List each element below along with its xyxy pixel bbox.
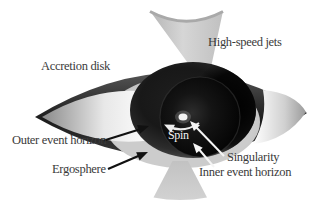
label-singularity: Singularity [227,151,279,165]
label-inner-event-horizon: Inner event horizon [199,166,291,180]
label-spin: Spin [168,129,189,142]
label-ergosphere: Ergosphere [52,163,106,177]
label-high-speed-jets: High-speed jets [208,36,282,50]
label-accretion-disk: Accretion disk [41,60,110,74]
black-hole-diagram: High-speed jets Accretion disk Outer eve… [0,0,324,207]
singularity-dot [175,111,191,124]
inner-event-horizon-disk [160,77,240,157]
label-outer-event-horizon: Outer event horizon [12,134,106,148]
